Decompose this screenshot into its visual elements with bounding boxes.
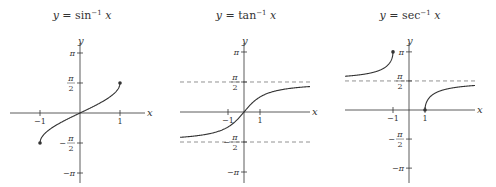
x-tick-label: 1 bbox=[422, 114, 427, 123]
function-curve bbox=[425, 85, 475, 110]
y-tick-label-numerator: π bbox=[231, 73, 238, 82]
y-tick-label-denominator: 2 bbox=[397, 82, 402, 91]
chart-title: y = tan−1 x bbox=[215, 9, 277, 22]
y-tick-label: π bbox=[233, 48, 240, 57]
title-arg: x bbox=[267, 9, 277, 22]
endpoint-dot bbox=[391, 50, 395, 54]
title-exponent: −1 bbox=[256, 9, 266, 17]
x-tick-label: 1 bbox=[257, 116, 262, 125]
y-tick-label-numerator: π bbox=[67, 74, 74, 83]
endpoint-dot bbox=[118, 81, 122, 85]
y-tick-label: −π bbox=[227, 168, 240, 177]
x-axis-label: x bbox=[477, 104, 483, 115]
x-axis-label: x bbox=[147, 107, 153, 118]
chart-title: y = sin−1 x bbox=[52, 9, 113, 22]
y-tick-label-sign: − bbox=[223, 138, 230, 147]
y-tick-label-numerator: π bbox=[396, 130, 403, 139]
y-tick-label-sign: − bbox=[59, 139, 66, 148]
y-axis-label: y bbox=[241, 35, 248, 46]
inverse-trig-figure: y = sin−1 xxy−11ππ2−π2−πy = tan−1 xxy−11… bbox=[0, 0, 496, 187]
function-curve bbox=[345, 52, 393, 76]
chart-panel-arctan: y = tan−1 xxy−11ππ2−π2−π bbox=[180, 9, 318, 183]
y-tick-label-denominator: 2 bbox=[68, 144, 73, 153]
y-axis-label: y bbox=[77, 35, 84, 46]
chart-panel-arcsin: y = sin−1 xxy−11ππ2−π2−π bbox=[10, 9, 153, 183]
x-tick-label: 1 bbox=[117, 117, 122, 126]
y-tick-label: π bbox=[69, 49, 76, 58]
title-fn: sin bbox=[75, 9, 91, 22]
endpoint-dot bbox=[423, 108, 427, 112]
title-arg: x bbox=[102, 9, 112, 22]
y-tick-label-denominator: 2 bbox=[68, 84, 73, 93]
title-fn: tan bbox=[238, 9, 256, 22]
y-tick-label-numerator: π bbox=[67, 134, 74, 143]
y-tick-label-numerator: π bbox=[396, 72, 403, 81]
y-tick-label-numerator: π bbox=[231, 133, 238, 142]
title-exponent: −1 bbox=[420, 9, 430, 17]
x-axis-label: x bbox=[312, 106, 318, 117]
y-tick-label-sign: − bbox=[388, 135, 395, 144]
x-tick-label: −1 bbox=[387, 114, 399, 123]
title-eq: = bbox=[222, 9, 238, 22]
endpoint-dot bbox=[38, 141, 42, 145]
title-eq: = bbox=[59, 9, 75, 22]
y-axis-label: y bbox=[406, 35, 413, 46]
y-tick-label-denominator: 2 bbox=[232, 143, 237, 152]
y-tick-label-denominator: 2 bbox=[397, 140, 402, 149]
title-arg: x bbox=[431, 9, 441, 22]
chart-title: y = sec−1 x bbox=[379, 9, 442, 22]
x-tick-label: −1 bbox=[34, 117, 46, 126]
title-fn: sec bbox=[402, 9, 420, 22]
y-tick-label: −π bbox=[63, 169, 76, 178]
y-tick-label: −π bbox=[392, 164, 405, 173]
chart-panel-arcsec: y = sec−1 xxy−11ππ2−π2−π bbox=[345, 9, 483, 183]
title-exponent: −1 bbox=[91, 9, 101, 17]
title-eq: = bbox=[386, 9, 402, 22]
y-tick-label-denominator: 2 bbox=[232, 83, 237, 92]
y-tick-label: π bbox=[398, 48, 405, 57]
